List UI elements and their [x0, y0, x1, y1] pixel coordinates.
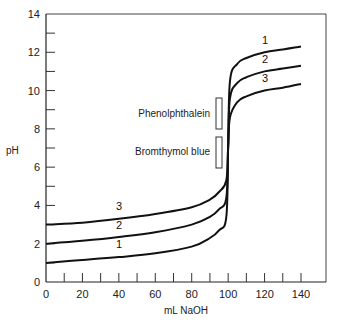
y-tick-label: 0: [34, 276, 40, 288]
titration-chart: 0 2 4 6 8 10 12 14 0 20 40 60 80 100 120…: [0, 0, 341, 325]
x-tick-labels: 0 20 40 60 80 100 120 140: [43, 288, 310, 300]
curve-labels: 1 2 3 1 2 3: [116, 34, 268, 250]
y-axis-ticks: [46, 33, 55, 263]
y-tick-label: 4: [34, 199, 40, 211]
x-tick-label: 0: [43, 288, 49, 300]
x-tick-label: 60: [149, 288, 161, 300]
y-tick-labels: 0 2 4 6 8 10 12 14: [28, 8, 40, 288]
x-tick-label: 100: [219, 288, 237, 300]
indicator-ranges: Phenolphthalein Bromthymol blue: [135, 98, 222, 168]
x-axis-ticks: [64, 273, 301, 282]
curve-label-1-base: 1: [262, 34, 268, 46]
x-axis-title: mL NaOH: [164, 305, 208, 316]
y-axis-title: pH: [6, 145, 19, 156]
y-tick-label: 8: [34, 123, 40, 135]
curve-label-1-acid: 1: [116, 238, 122, 250]
x-tick-label: 20: [76, 288, 88, 300]
phenolphthalein-range-box: [216, 98, 222, 129]
curve-label-2-base: 2: [262, 53, 268, 65]
phenolphthalein-label: Phenolphthalein: [138, 108, 210, 119]
bromthymol-blue-label: Bromthymol blue: [135, 146, 210, 157]
x-tick-label: 120: [255, 288, 273, 300]
y-tick-label: 10: [28, 85, 40, 97]
y-tick-label: 2: [34, 238, 40, 250]
y-tick-label: 12: [28, 46, 40, 58]
bromthymol-blue-range-box: [216, 137, 222, 168]
y-tick-label: 14: [28, 8, 40, 20]
curve-label-3-acid: 3: [116, 200, 122, 212]
x-tick-label: 140: [292, 288, 310, 300]
x-tick-label: 40: [113, 288, 125, 300]
x-tick-label: 80: [186, 288, 198, 300]
curve-label-3-base: 3: [262, 72, 268, 84]
curve-label-2-acid: 2: [116, 219, 122, 231]
y-tick-label: 6: [34, 161, 40, 173]
